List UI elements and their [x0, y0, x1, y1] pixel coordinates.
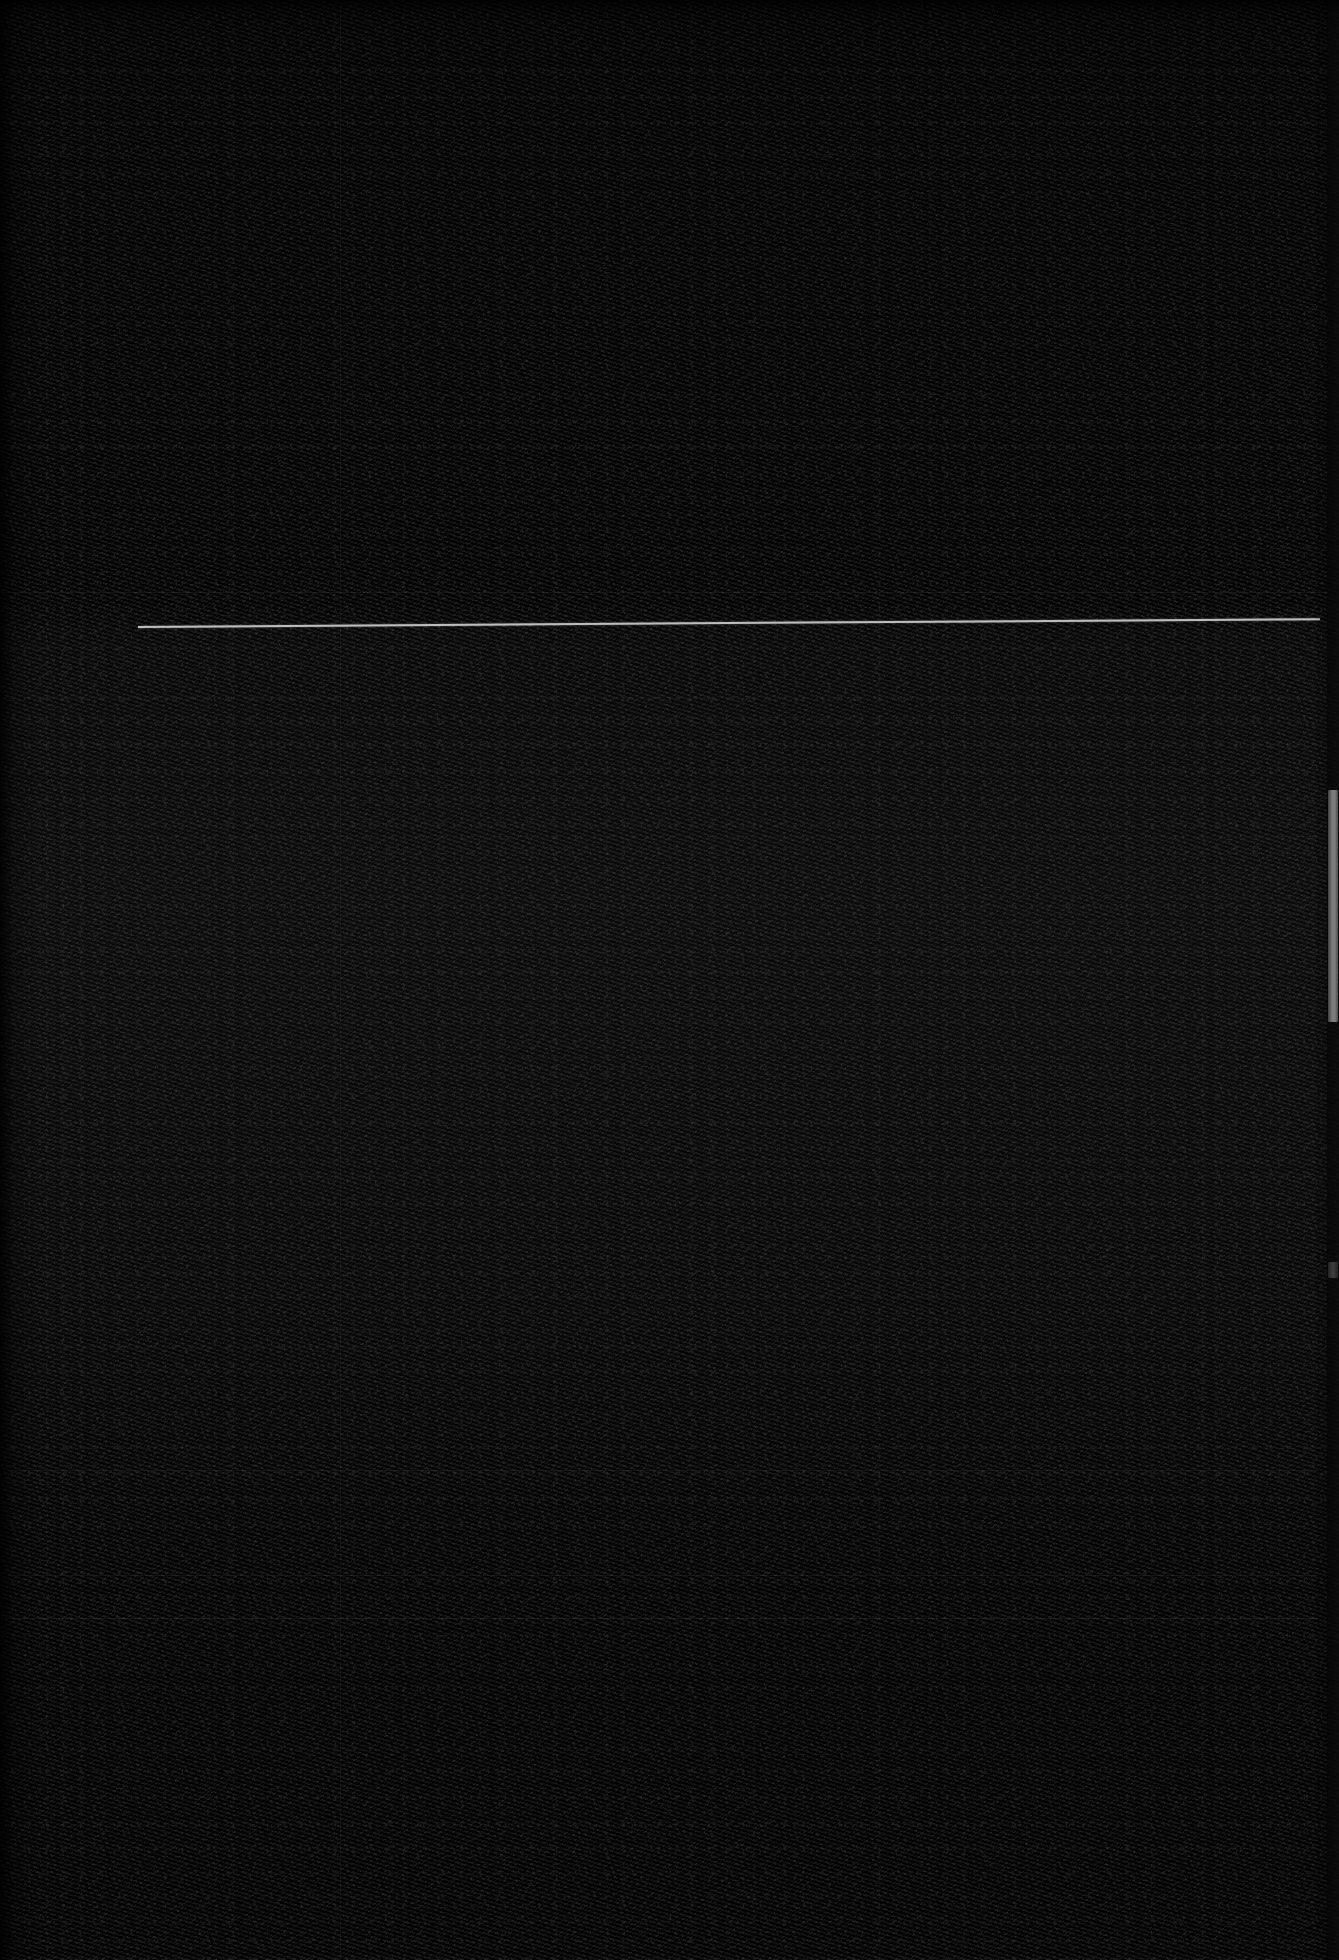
- vertical-scrollbar[interactable]: [1327, 0, 1339, 1960]
- scrollbar-secondary-mark[interactable]: [1328, 1262, 1338, 1278]
- app-window: Near-black high-noise screen capture; no…: [0, 0, 1339, 1960]
- noise-grain-layer-3: [0, 0, 1339, 1960]
- scrollbar-thumb[interactable]: [1328, 790, 1338, 1022]
